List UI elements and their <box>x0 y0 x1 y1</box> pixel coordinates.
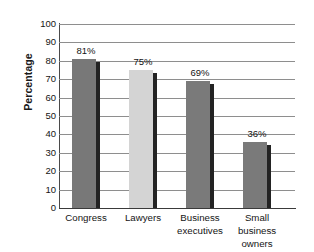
plot-area: 81%75%69%36% <box>59 24 295 208</box>
bar: 69% <box>186 81 214 208</box>
bar-shadow <box>153 73 157 208</box>
y-axis-tick-label: 70 <box>10 74 56 84</box>
y-axis-tick-label: 50 <box>10 111 56 121</box>
bar-shadow <box>267 145 271 208</box>
y-axis-tick-label: 10 <box>10 185 56 195</box>
x-axis-category-label-line: Business <box>169 211 231 224</box>
y-axis-tick-label: 40 <box>10 129 56 139</box>
x-axis-category-label: Businessexecutives <box>169 211 231 237</box>
gridline <box>59 24 295 25</box>
bar-chart: Percentage 1009080706050403020100 81%75%… <box>0 0 314 252</box>
y-axis-tick-labels: 1009080706050403020100 <box>8 0 56 252</box>
bar-value-label: 81% <box>63 45 109 56</box>
y-axis-tick-label: 0 <box>10 203 56 213</box>
x-axis-category-label: Small businessowners <box>226 211 288 250</box>
bar-body <box>72 59 96 208</box>
y-axis-tick-label: 20 <box>10 166 56 176</box>
y-axis-tick-label: 100 <box>10 19 56 29</box>
x-axis-category-label-line: Congress <box>55 211 117 224</box>
x-axis-category-label: Lawyers <box>112 211 174 224</box>
bar: 81% <box>72 59 100 208</box>
bar-body <box>186 81 210 208</box>
y-axis-tick-label: 90 <box>10 37 56 47</box>
bar-value-label: 69% <box>177 67 223 78</box>
bar-body <box>129 70 153 208</box>
bar-body <box>243 142 267 208</box>
bar-value-label: 75% <box>120 56 166 67</box>
x-axis-category-label-line: Lawyers <box>112 211 174 224</box>
bar-value-label: 36% <box>234 128 280 139</box>
x-axis-category-label-line: executives <box>169 224 231 237</box>
bar: 75% <box>129 70 157 208</box>
x-axis-category-label: Congress <box>55 211 117 224</box>
y-axis-tick-label: 30 <box>10 148 56 158</box>
bar-shadow <box>96 62 100 208</box>
x-axis-category-labels: CongressLawyersBusinessexecutivesSmall b… <box>59 211 299 251</box>
bar-shadow <box>210 84 214 208</box>
x-axis-category-label-line: Small business <box>226 211 288 237</box>
y-axis-tick-label: 60 <box>10 93 56 103</box>
gridline <box>59 42 295 43</box>
bar: 36% <box>243 142 271 208</box>
x-axis-line <box>59 208 296 209</box>
x-axis-category-label-line: owners <box>226 237 288 250</box>
y-axis-tick-label: 80 <box>10 56 56 66</box>
